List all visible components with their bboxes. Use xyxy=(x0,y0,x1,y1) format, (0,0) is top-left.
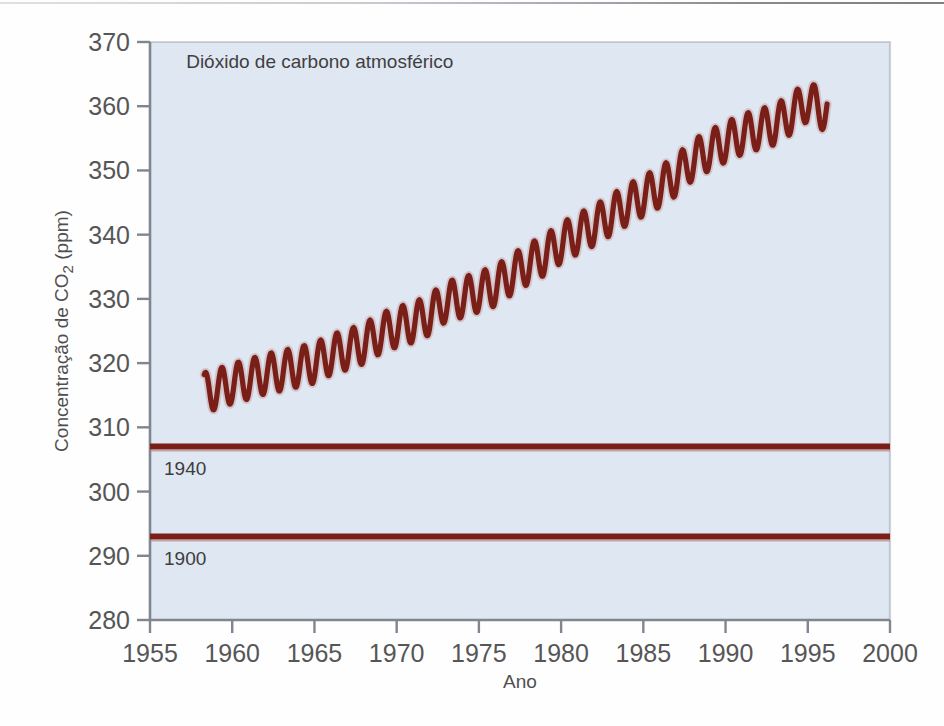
x-tick-label: 1970 xyxy=(369,639,425,667)
y-tick-label: 370 xyxy=(88,28,130,56)
y-axis-ticks: 280290300310320330340350360370 xyxy=(88,28,150,634)
x-tick-label: 1955 xyxy=(122,639,178,667)
svg-text:Concentração de CO2 (ppm): Concentração de CO2 (ppm) xyxy=(51,210,76,452)
reference-line-label: 1940 xyxy=(164,458,206,479)
figure-canvas: 280290300310320330340350360370 195519601… xyxy=(0,0,944,726)
y-tick-label: 310 xyxy=(88,413,130,441)
y-tick-label: 330 xyxy=(88,285,130,313)
y-axis-title-pre: Concentração de CO xyxy=(51,273,72,452)
y-tick-label: 350 xyxy=(88,156,130,184)
y-axis-title-subscript: 2 xyxy=(59,265,76,273)
y-tick-label: 340 xyxy=(88,221,130,249)
x-tick-label: 1975 xyxy=(451,639,507,667)
x-axis-title: Ano xyxy=(503,671,537,692)
x-tick-label: 1960 xyxy=(204,639,260,667)
x-tick-label: 1980 xyxy=(533,639,589,667)
series-title-annotation: Dióxido de carbono atmosférico xyxy=(186,51,453,72)
x-tick-label: 1965 xyxy=(287,639,343,667)
x-axis-ticks: 1955196019651970197519801985199019952000 xyxy=(122,620,918,667)
x-tick-label: 1985 xyxy=(616,639,672,667)
y-axis-title-post: (ppm) xyxy=(51,210,72,265)
y-tick-label: 280 xyxy=(88,606,130,634)
y-tick-label: 320 xyxy=(88,349,130,377)
reference-line-label: 1900 xyxy=(164,548,206,569)
y-tick-label: 360 xyxy=(88,92,130,120)
y-axis-title: Concentração de CO2 (ppm) xyxy=(51,210,76,452)
x-tick-label: 1995 xyxy=(780,639,836,667)
x-tick-label: 2000 xyxy=(862,639,918,667)
x-tick-label: 1990 xyxy=(698,639,754,667)
y-tick-label: 290 xyxy=(88,542,130,570)
y-tick-label: 300 xyxy=(88,478,130,506)
co2-line-chart: 280290300310320330340350360370 195519601… xyxy=(0,0,944,726)
